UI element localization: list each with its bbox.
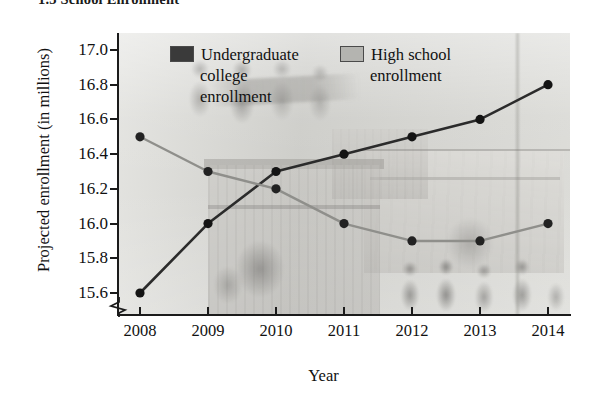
legend-swatch-high-school-icon	[340, 46, 364, 62]
x-tick-2010	[275, 307, 277, 315]
background-photo-trees-right	[418, 203, 528, 283]
y-tick-label-16.4: 16.4	[52, 145, 108, 162]
background-photo-trees-left	[214, 229, 334, 315]
x-tick-2013	[479, 307, 481, 315]
legend-row-primary: High school	[340, 44, 500, 65]
legend-label-undergraduate-3: enrollment	[170, 86, 330, 107]
y-axis-tick-labels: 17.016.816.616.416.216.015.815.6	[46, 0, 108, 404]
x-tick-label-2009: 2009	[178, 321, 238, 341]
y-tick-label-15.6: 15.6	[52, 284, 108, 301]
legend-label-high-school-2: enrollment	[340, 65, 500, 86]
y-tick-label-16.0: 16.0	[52, 215, 108, 232]
legend-label-undergraduate-2: college	[170, 65, 330, 86]
y-tick-16.0	[110, 223, 118, 225]
background-photo-roof	[204, 159, 384, 169]
x-tick-label-2012: 2012	[382, 321, 442, 341]
y-axis-line	[117, 33, 119, 315]
x-tick-label-2014: 2014	[518, 321, 578, 341]
legend-swatch-undergraduate-icon	[170, 46, 194, 62]
legend-row-primary: Undergraduate	[170, 44, 330, 65]
legend-item-undergraduate: Undergraduate college enrollment	[170, 44, 330, 107]
background-photo-students	[390, 247, 570, 315]
x-tick-label-2011: 2011	[314, 321, 374, 341]
background-photo-ledge	[358, 149, 570, 151]
x-tick-2009	[207, 307, 209, 315]
x-tick-2011	[343, 307, 345, 315]
background-photo-building-left	[208, 165, 380, 315]
x-tick-label-2013: 2013	[450, 321, 510, 341]
y-tick-16.2	[110, 188, 118, 190]
y-tick-label-16.6: 16.6	[52, 110, 108, 127]
axis-break-icon	[108, 296, 130, 318]
y-tick-15.6	[110, 292, 118, 294]
legend-label-high-school-1: High school	[371, 45, 451, 64]
y-tick-label-17.0: 17.0	[52, 41, 108, 58]
background-photo-building-mid	[332, 129, 428, 199]
y-tick-16.8	[110, 84, 118, 86]
background-photo-pole	[516, 33, 519, 315]
y-tick-15.8	[110, 257, 118, 259]
y-tick-16.6	[110, 118, 118, 120]
legend-item-high-school: High school enrollment	[340, 44, 500, 86]
y-tick-17.0	[110, 49, 118, 51]
x-tick-2012	[411, 307, 413, 315]
background-photo-building-right	[364, 151, 564, 273]
y-tick-16.4	[110, 153, 118, 155]
chart-figure: 1.3 School Enrollment Projected enrollme…	[0, 0, 599, 404]
x-axis-title-text: Year	[308, 366, 338, 385]
y-tick-label-16.8: 16.8	[52, 76, 108, 93]
x-tick-2014	[547, 307, 549, 315]
y-tick-label-16.2: 16.2	[52, 180, 108, 197]
x-tick-label-2010: 2010	[246, 321, 306, 341]
x-tick-label-2008: 2008	[110, 321, 170, 341]
y-tick-label-15.8: 15.8	[52, 249, 108, 266]
legend-label-undergraduate-1: Undergraduate	[201, 45, 299, 64]
x-tick-2008	[139, 307, 141, 315]
